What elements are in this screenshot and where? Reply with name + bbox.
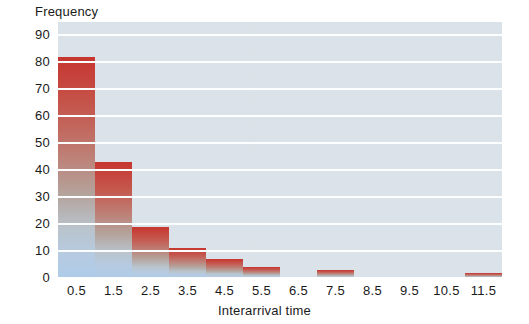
gridline [58, 223, 502, 225]
x-axis-tick-label: 0.5 [58, 283, 95, 298]
x-axis-tick-label: 9.5 [391, 283, 428, 298]
x-axis-tick-label: 6.5 [280, 283, 317, 298]
x-axis-tick-label: 8.5 [354, 283, 391, 298]
bar [95, 162, 132, 278]
x-axis-tick-label: 11.5 [465, 283, 502, 298]
gridline [58, 196, 502, 198]
y-axis-tick-label: 40 [6, 162, 50, 177]
bar [132, 227, 169, 278]
gridline [58, 88, 502, 90]
x-axis-tick-label: 1.5 [95, 283, 132, 298]
bars-layer [58, 22, 502, 278]
gridline [58, 115, 502, 117]
y-axis-tick-label: 0 [6, 270, 50, 285]
y-axis-tick-label: 60 [6, 108, 50, 123]
gridline [58, 169, 502, 171]
y-axis-tick-label: 30 [6, 189, 50, 204]
y-axis-tick-label: 70 [6, 81, 50, 96]
x-axis-tick-label: 4.5 [206, 283, 243, 298]
gridline [58, 142, 502, 144]
x-axis-tick-label: 2.5 [132, 283, 169, 298]
bar [169, 248, 206, 278]
x-axis-tick-label: 7.5 [317, 283, 354, 298]
x-axis-tick-label: 5.5 [243, 283, 280, 298]
bar [206, 259, 243, 278]
y-axis-title: Frequency [35, 4, 98, 19]
gridline [58, 34, 502, 36]
gridline [58, 250, 502, 252]
y-axis-tick-label: 10 [6, 243, 50, 258]
y-axis-tick-label: 20 [6, 216, 50, 231]
gridline [58, 277, 502, 278]
x-axis-title: Interarrival time [0, 303, 529, 318]
x-axis-tick-label: 10.5 [428, 283, 465, 298]
y-axis-tick-label: 90 [6, 27, 50, 42]
plot-area [58, 22, 502, 278]
y-axis-tick-label: 80 [6, 54, 50, 69]
histogram-chart: Frequency 0102030405060708090 0.51.52.53… [0, 0, 529, 324]
y-axis-tick-label: 50 [6, 135, 50, 150]
gridline [58, 61, 502, 63]
x-axis-tick-label: 3.5 [169, 283, 206, 298]
